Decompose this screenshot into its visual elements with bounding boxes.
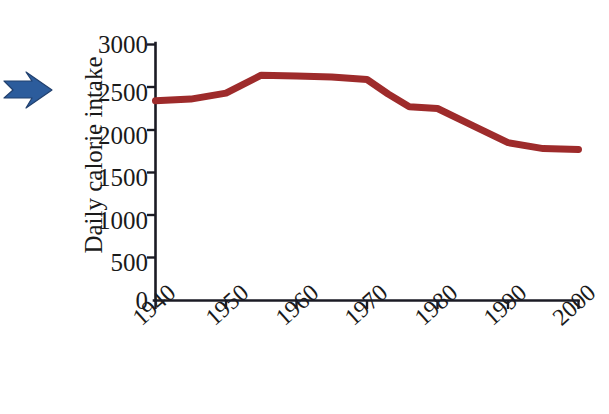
chart-figure: Daily calorie intake 0 500 1000 1500 200…: [0, 0, 609, 414]
data-series-line: [156, 75, 579, 149]
plot-area: [0, 0, 609, 414]
y-axis-ticks: [147, 45, 155, 258]
